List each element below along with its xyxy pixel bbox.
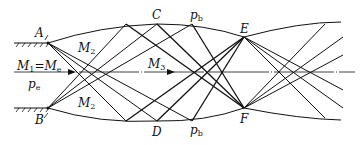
label-M3: M3 [148,58,165,72]
label-C: C [152,9,161,21]
label-F: F [240,113,248,125]
label-pb-bottom: pb [190,124,203,138]
label-B: B [35,114,44,126]
label-A: A [35,27,44,39]
label-pb-top: pb [190,9,203,23]
label-M2-top: M2 [78,42,95,56]
label-E: E [240,23,249,35]
label-M2-bottom: M2 [78,97,95,111]
label-D: D [152,126,162,138]
label-pe: pe [28,78,40,92]
upper-jet-boundary [48,22,341,43]
label-M1-eq-Me: M1=Me [17,60,61,74]
nozzle-shock-diagram: A B C D E F M2 M2 M3 M1=Me pe pb pb [0,0,361,145]
